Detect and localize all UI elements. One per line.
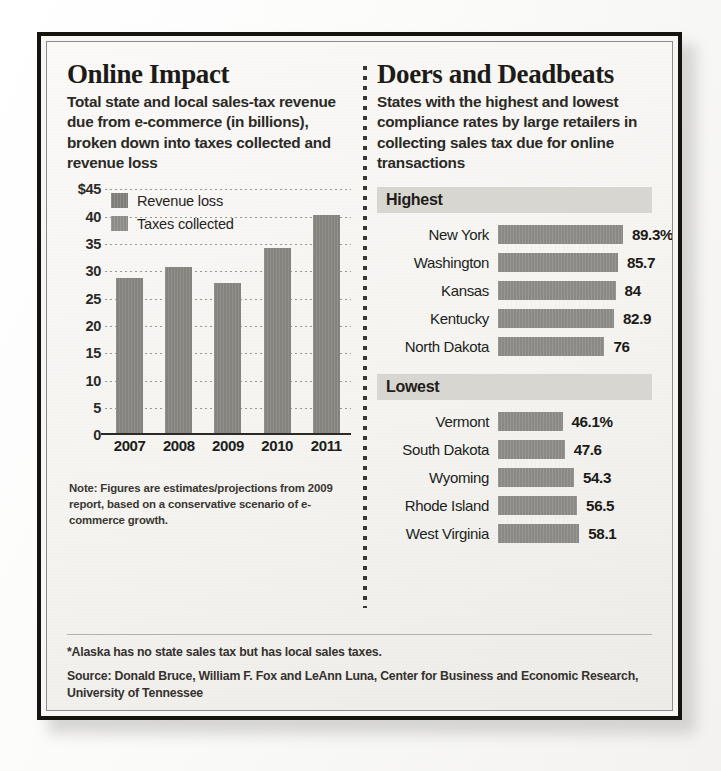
section-rows: New York89.3%Washington85.7Kansas84Kentu… [377, 220, 652, 360]
bar-2010 [264, 248, 291, 434]
row-value-label: 82.9 [623, 310, 651, 327]
infographic-content: Online Impact Total state and local sale… [47, 42, 672, 710]
infographic-page: Online Impact Total state and local sale… [0, 0, 721, 771]
row-bar [498, 524, 579, 543]
row-bar [498, 412, 563, 431]
y-axis-tick-label: 40 [85, 209, 101, 225]
section-rows: Vermont46.1%South Dakota47.6Wyoming54.3R… [377, 407, 652, 547]
row-bar [498, 440, 565, 459]
legend-item-revenue-loss: Revenue loss [111, 189, 234, 212]
footnote-alaska: *Alaska has no state sales tax but has l… [67, 644, 652, 661]
source-credit: Source: Donald Bruce, William F. Fox and… [67, 668, 652, 702]
row-state-label: Wyoming [377, 469, 498, 486]
vertical-dotted-divider [353, 60, 377, 616]
footer: *Alaska has no state sales tax but has l… [67, 634, 652, 703]
legend-swatch-icon [111, 193, 128, 208]
bar-chart: 0510152025303540$45 20072008200920102011 [67, 189, 353, 481]
bar-2011 [313, 215, 340, 434]
row-state-label: North Dakota [377, 338, 498, 355]
row-value-label: 58.1 [588, 525, 616, 542]
y-axis-tick-label: 0 [93, 427, 101, 443]
row-bar-cell: 56.5 [498, 496, 652, 515]
table-row: Kansas84 [377, 276, 652, 304]
row-bar-cell: 47.6 [498, 440, 652, 459]
row-value-label: 47.6 [574, 441, 602, 458]
section-heading: Highest [377, 187, 652, 213]
row-bar-cell: 89.3% [498, 225, 652, 244]
right-panel-title: Doers and Deadbeats [377, 60, 652, 88]
bar-chart-area: 0510152025303540$45 20072008200920102011 [67, 189, 353, 461]
row-bar-cell: 85.7 [498, 253, 652, 272]
legend-label: Taxes collected [137, 216, 234, 232]
row-bar [498, 468, 574, 487]
row-value-label: 85.7 [627, 254, 655, 271]
legend-label: Revenue loss [137, 193, 223, 209]
row-state-label: Rhode Island [377, 497, 498, 514]
row-bar [498, 309, 614, 328]
row-bar-cell: 84 [498, 281, 652, 300]
left-panel-title: Online Impact [67, 60, 353, 88]
row-state-label: Vermont [377, 413, 498, 430]
table-row: New York89.3% [377, 220, 652, 248]
row-state-label: Washington [377, 254, 498, 271]
table-row: North Dakota76 [377, 332, 652, 360]
x-axis-tick-label: 2008 [155, 437, 203, 454]
row-value-label: 89.3% [632, 226, 673, 243]
left-panel-deck: Total state and local sales-tax revenue … [67, 92, 353, 173]
section-highest: HighestNew York89.3%Washington85.7Kansas… [377, 187, 652, 360]
row-state-label: Kansas [377, 282, 498, 299]
row-bar [498, 253, 618, 272]
x-axis-labels: 20072008200920102011 [105, 437, 351, 454]
y-axis-tick-label: 35 [85, 236, 101, 252]
row-state-label: West Virginia [377, 525, 498, 542]
x-axis-tick-label: 2007 [106, 437, 154, 454]
section-lowest: LowestVermont46.1%South Dakota47.6Wyomin… [377, 374, 652, 547]
x-axis-tick-label: 2010 [253, 437, 301, 454]
legend-swatch-icon [111, 216, 128, 231]
row-bar [498, 337, 604, 356]
panels-container: Online Impact Total state and local sale… [67, 60, 652, 616]
y-axis: 0510152025303540$45 [67, 189, 101, 435]
row-bar [498, 225, 623, 244]
compliance-sections: HighestNew York89.3%Washington85.7Kansas… [377, 187, 652, 547]
panel-online-impact: Online Impact Total state and local sale… [67, 60, 353, 616]
x-axis-line [101, 433, 351, 435]
y-axis-tick-label: 5 [93, 400, 101, 416]
row-bar-cell: 76 [498, 337, 652, 356]
table-row: Washington85.7 [377, 248, 652, 276]
row-bar-cell: 82.9 [498, 309, 652, 328]
bar-2007 [116, 278, 143, 434]
panel-doers-and-deadbeats: Doers and Deadbeats States with the high… [377, 60, 652, 616]
bar-2009 [214, 283, 241, 433]
x-axis-tick-label: 2009 [204, 437, 252, 454]
row-state-label: New York [377, 226, 498, 243]
infographic-inner-frame: Online Impact Total state and local sale… [46, 41, 673, 711]
row-bar-cell: 58.1 [498, 524, 652, 543]
y-axis-tick-label: 20 [85, 318, 101, 334]
section-heading: Lowest [377, 374, 652, 400]
y-axis-tick-label: 10 [85, 373, 101, 389]
row-bar [498, 281, 616, 300]
table-row: Rhode Island56.5 [377, 491, 652, 519]
chart-legend: Revenue loss Taxes collected [111, 189, 234, 235]
row-bar-cell: 54.3 [498, 468, 652, 487]
y-axis-tick-label: 30 [85, 263, 101, 279]
table-row: West Virginia58.1 [377, 519, 652, 547]
right-panel-deck: States with the highest and lowest compl… [377, 92, 652, 173]
table-row: Kentucky82.9 [377, 304, 652, 332]
bar-2008 [165, 267, 192, 434]
y-axis-tick-label: 25 [85, 291, 101, 307]
legend-item-taxes-collected: Taxes collected [111, 212, 234, 235]
row-bar [498, 496, 577, 515]
footer-divider [67, 634, 652, 635]
row-value-label: 54.3 [583, 469, 611, 486]
x-axis-tick-label: 2011 [302, 437, 350, 454]
row-state-label: South Dakota [377, 441, 498, 458]
row-value-label: 46.1% [572, 413, 613, 430]
row-value-label: 56.5 [586, 497, 614, 514]
row-value-label: 76 [613, 338, 629, 355]
row-bar-cell: 46.1% [498, 412, 652, 431]
table-row: Vermont46.1% [377, 407, 652, 435]
y-axis-tick-label: 15 [85, 345, 101, 361]
chart-note: Note: Figures are estimates/projections … [69, 481, 347, 528]
